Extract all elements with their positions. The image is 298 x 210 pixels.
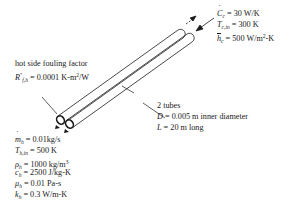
hot-outlet-arrow: [186, 16, 196, 24]
cold-flow-arrow: [196, 18, 214, 31]
leader-lines: [42, 86, 165, 118]
cold-heat-transfer-coeff: hc = 500 W/m2-K: [217, 31, 274, 46]
hot-conductivity: kh = 0.3 W/m-K: [15, 190, 67, 202]
tube-count: 2 tubes: [157, 101, 180, 111]
tube-length: L = 20 m long: [157, 123, 204, 133]
tube-diameter: D = 0.005 m inner diameter: [157, 112, 248, 122]
fouling-value: R″f,h = 0.0001 K-m2/W: [15, 70, 89, 85]
fouling-title: hot side fouling factor: [15, 59, 88, 69]
